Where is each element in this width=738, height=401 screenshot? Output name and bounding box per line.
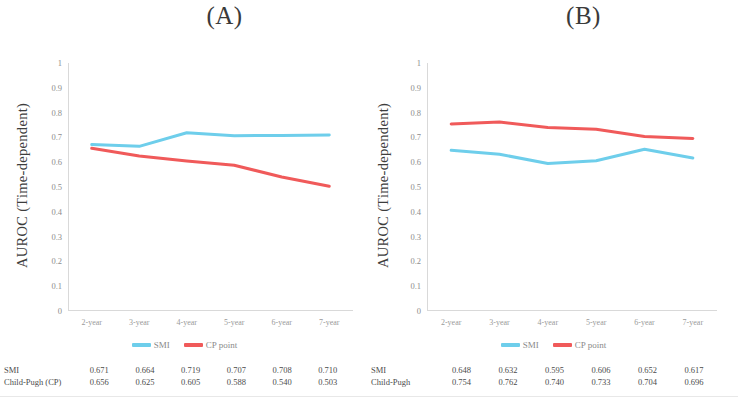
y-tick-label: 1 bbox=[417, 58, 421, 68]
y-tick-label: 0.5 bbox=[51, 182, 62, 192]
panel-b-plot-area: 10.90.80.70.60.50.40.30.20.10 2-year3-ye… bbox=[427, 63, 717, 311]
x-tick-label: 3-year bbox=[129, 318, 149, 327]
table-cell-value: 0.588 bbox=[227, 376, 273, 388]
panel-a-title: (A) bbox=[0, 2, 409, 30]
y-tick-label: 0.3 bbox=[410, 232, 421, 242]
legend-swatch-icon bbox=[184, 343, 203, 347]
y-tick-label: 0.5 bbox=[410, 182, 421, 192]
x-tick-label: 4-year bbox=[177, 318, 197, 327]
x-tick-label: 6-year bbox=[272, 318, 292, 327]
y-tick-label: 0.4 bbox=[410, 207, 421, 217]
y-tick-label: 0.9 bbox=[410, 83, 421, 93]
table-cell-value: 0.740 bbox=[545, 376, 592, 388]
y-tick-label: 0.6 bbox=[51, 157, 62, 167]
table-row-label: SMI bbox=[4, 364, 90, 376]
legend-item: SMI bbox=[501, 340, 539, 350]
x-tick-label: 7-year bbox=[683, 318, 703, 327]
table-row: Child-Pugh0.7540.7620.7400.7330.7040.696 bbox=[371, 376, 731, 388]
legend-item: CP point bbox=[553, 340, 606, 350]
y-tick-label: 0.4 bbox=[51, 207, 62, 217]
table-cell-value: 0.656 bbox=[90, 376, 136, 388]
chart-panel-b: (B) AUROC (Time-dependent) 10.90.80.70.6… bbox=[369, 0, 738, 401]
x-tick-label: 2-year bbox=[82, 318, 102, 327]
panel-a-data-table: SMI0.6710.6640.7190.7070.7080.710Child-P… bbox=[4, 364, 364, 388]
legend-label: SMI bbox=[154, 340, 170, 350]
legend-label: CP point bbox=[575, 340, 606, 350]
table-cell-value: 0.617 bbox=[684, 364, 731, 376]
y-tick-label: 0.7 bbox=[51, 132, 62, 142]
figure-container: (A) AUROC (Time-dependent) 10.90.80.70.6… bbox=[0, 0, 738, 401]
y-tick-label: 0 bbox=[417, 306, 421, 316]
y-tick-label: 0.1 bbox=[51, 281, 62, 291]
y-tick-label: 0.8 bbox=[51, 108, 62, 118]
table-row: SMI0.6480.6320.5950.6060.6520.617 bbox=[371, 364, 731, 376]
table-cell-value: 0.632 bbox=[498, 364, 545, 376]
table-cell-value: 0.707 bbox=[227, 364, 273, 376]
legend-label: CP point bbox=[206, 340, 237, 350]
x-tick-label: 5-year bbox=[586, 318, 606, 327]
y-tick-label: 0 bbox=[58, 306, 62, 316]
legend-label: SMI bbox=[523, 340, 539, 350]
x-tick-label: 3-year bbox=[489, 318, 509, 327]
table-cell-value: 0.595 bbox=[545, 364, 592, 376]
table-cell-value: 0.733 bbox=[591, 376, 638, 388]
table-row-label: Child-Pugh bbox=[371, 376, 452, 388]
table-row-label: Child-Pugh (CP) bbox=[4, 376, 90, 388]
table-cell-value: 0.708 bbox=[273, 364, 319, 376]
panel-b-data-table: SMI0.6480.6320.5950.6060.6520.617Child-P… bbox=[371, 364, 731, 388]
panel-a-legend: SMICP point bbox=[0, 340, 369, 350]
series-line-cp-point bbox=[451, 122, 693, 138]
chart-panel-a: (A) AUROC (Time-dependent) 10.90.80.70.6… bbox=[0, 0, 369, 401]
panel-b-y-axis-label: AUROC (Time-dependent) bbox=[375, 60, 395, 310]
panel-b-legend: SMICP point bbox=[369, 340, 738, 350]
panel-a-series-lines bbox=[68, 63, 353, 311]
x-tick-label: 6-year bbox=[634, 318, 654, 327]
legend-swatch-icon bbox=[553, 343, 572, 347]
table-row-label: SMI bbox=[371, 364, 452, 376]
table-cell-value: 0.605 bbox=[181, 376, 227, 388]
y-tick-label: 0.1 bbox=[410, 281, 421, 291]
y-tick-label: 0.8 bbox=[410, 108, 421, 118]
table-cell-value: 0.625 bbox=[135, 376, 181, 388]
table-cell-value: 0.754 bbox=[452, 376, 499, 388]
legend-swatch-icon bbox=[132, 343, 151, 347]
y-tick-label: 0.3 bbox=[51, 232, 62, 242]
legend-item: SMI bbox=[132, 340, 170, 350]
y-tick-label: 0.2 bbox=[51, 256, 62, 266]
legend-item: CP point bbox=[184, 340, 237, 350]
y-tick-label: 0.9 bbox=[51, 83, 62, 93]
series-line-smi bbox=[451, 149, 693, 163]
table-cell-value: 0.710 bbox=[318, 364, 364, 376]
table-cell-value: 0.503 bbox=[318, 376, 364, 388]
series-line-smi bbox=[92, 133, 330, 147]
table-cell-value: 0.606 bbox=[591, 364, 638, 376]
series-line-cp-point bbox=[92, 148, 330, 186]
table-cell-value: 0.719 bbox=[181, 364, 227, 376]
table-row: Child-Pugh (CP)0.6560.6250.6050.5880.540… bbox=[4, 376, 364, 388]
x-tick-label: 5-year bbox=[224, 318, 244, 327]
table-cell-value: 0.664 bbox=[135, 364, 181, 376]
y-tick-label: 1 bbox=[58, 58, 62, 68]
panel-b-series-lines bbox=[427, 63, 717, 311]
table-cell-value: 0.652 bbox=[638, 364, 685, 376]
table-cell-value: 0.540 bbox=[273, 376, 319, 388]
x-tick-label: 4-year bbox=[538, 318, 558, 327]
x-tick-label: 2-year bbox=[441, 318, 461, 327]
table-cell-value: 0.762 bbox=[498, 376, 545, 388]
table-cell-value: 0.696 bbox=[684, 376, 731, 388]
table-cell-value: 0.648 bbox=[452, 364, 499, 376]
panel-a-y-axis-label: AUROC (Time-dependent) bbox=[14, 60, 34, 310]
y-tick-label: 0.2 bbox=[410, 256, 421, 266]
bottom-divider bbox=[0, 396, 738, 397]
panel-b-title: (B) bbox=[369, 2, 738, 30]
y-tick-label: 0.7 bbox=[410, 132, 421, 142]
table-row: SMI0.6710.6640.7190.7070.7080.710 bbox=[4, 364, 364, 376]
table-cell-value: 0.704 bbox=[638, 376, 685, 388]
x-tick-label: 7-year bbox=[319, 318, 339, 327]
panel-a-plot-area: 10.90.80.70.60.50.40.30.20.10 2-year3-ye… bbox=[68, 63, 353, 311]
y-tick-label: 0.6 bbox=[410, 157, 421, 167]
legend-swatch-icon bbox=[501, 343, 520, 347]
table-cell-value: 0.671 bbox=[90, 364, 136, 376]
